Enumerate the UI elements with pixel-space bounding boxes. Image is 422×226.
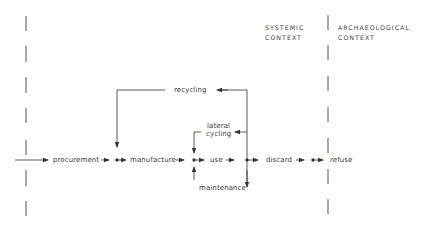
node-procurement: procurement [53,156,99,164]
archaeological-context-line-2: CONTEXT [338,33,410,43]
recycling-label: recycling [174,86,207,94]
maintenance-label: maintenance [199,184,246,192]
node-use: use [210,156,223,164]
node-refuse: refuse [330,156,353,164]
lateral-cycling-label-1: lateral [207,122,230,130]
systemic-context-line-2: CONTEXT [265,33,304,43]
systemic-context-line-1: SYSTEMIC [265,23,304,33]
archaeological-context-line-1: ARCHAEOLOGICAL [338,23,410,33]
systemic-context-header: SYSTEMIC CONTEXT [265,23,304,43]
node-discard: discard [266,156,292,164]
lateral-cycling-label-2: cycling [206,130,231,138]
archaeological-context-header: ARCHAEOLOGICAL CONTEXT [338,23,410,43]
node-manufacture: manufacture [130,156,176,164]
